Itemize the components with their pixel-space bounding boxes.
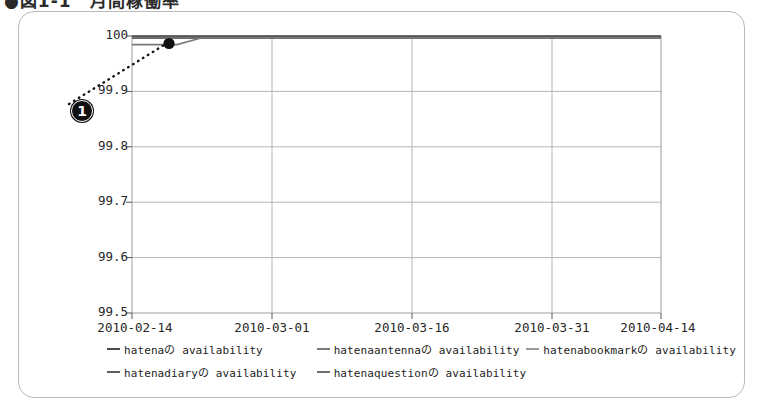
legend-label: hatenadiaryの availability [124, 362, 296, 385]
legend-swatch-icon [526, 348, 539, 350]
legend-swatch-icon [107, 371, 120, 373]
legend-row-1: hatenaの availability hatenaantennaの avai… [107, 338, 727, 361]
legend-label: hatenabookmarkの availability [543, 339, 736, 362]
legend-item-hatenaquestion: hatenaquestionの availability [317, 361, 527, 385]
grid-lines [132, 36, 661, 313]
cropped-heading-sliver: ●図1-1 月間稼働率 [0, 0, 766, 10]
callout-badge-1: 1 [71, 100, 93, 122]
callout-badge-label: 1 [77, 103, 87, 119]
figure-card: 100 99.9 99.8 99.7 99.6 99.5 2010-02-14 … [18, 11, 745, 398]
legend-swatch-icon [317, 371, 330, 373]
series-lines [132, 36, 661, 44]
legend-swatch-icon [107, 348, 120, 350]
legend-label: hatenaquestionの availability [334, 362, 527, 385]
axis-tick-marks [126, 36, 661, 319]
cropped-heading-text: ●図1-1 月間稼働率 [4, 0, 180, 10]
legend-item-hatena: hatenaの availability [107, 338, 307, 362]
legend-item-hatenabookmark: hatenabookmarkの availability [526, 338, 736, 362]
legend-label: hatenaantennaの availability [334, 339, 520, 362]
callout-data-point-marker [163, 38, 174, 49]
legend-row-2: hatenadiaryの availability hatenaquestion… [107, 361, 727, 384]
legend-item-hatenadiary: hatenadiaryの availability [107, 361, 307, 385]
legend-swatch-icon [317, 348, 330, 350]
chart-legend: hatenaの availability hatenaantennaの avai… [107, 338, 727, 384]
availability-line-chart: 100 99.9 99.8 99.7 99.6 99.5 2010-02-14 … [19, 12, 746, 399]
legend-label: hatenaの availability [124, 339, 263, 362]
legend-item-hatenaantenna: hatenaantennaの availability [317, 338, 517, 362]
